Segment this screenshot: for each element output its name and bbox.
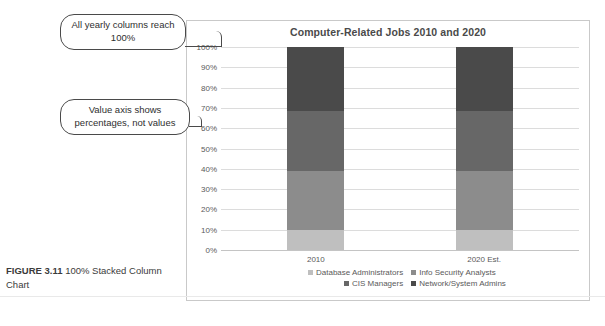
- callout-all-columns-reach-100: All yearly columns reach 100%: [60, 14, 186, 50]
- bar-segment[interactable]: [456, 230, 513, 250]
- legend-label: Database Administrators: [316, 268, 403, 277]
- legend-label: CIS Managers: [352, 279, 403, 288]
- y-axis-tick-label: 30%: [201, 185, 217, 194]
- legend-item[interactable]: Network/System Admins: [407, 279, 579, 288]
- gridline: [221, 250, 579, 251]
- bar-segment[interactable]: [287, 47, 344, 111]
- y-axis-tick-label: 20%: [201, 205, 217, 214]
- chart-title: Computer-Related Jobs 2010 and 2020: [187, 26, 589, 38]
- bar-segment[interactable]: [287, 111, 344, 171]
- y-axis-tick-label: 0%: [205, 246, 217, 255]
- y-axis-tick-label: 60%: [201, 124, 217, 133]
- y-axis-tick-label: 50%: [201, 144, 217, 153]
- gridline: [221, 128, 579, 129]
- legend-item[interactable]: CIS Managers: [221, 279, 407, 288]
- y-axis-tick-label: 70%: [201, 103, 217, 112]
- x-axis-category-label: 2010: [307, 255, 325, 264]
- y-axis-tick-label: 40%: [201, 164, 217, 173]
- gridline: [221, 47, 579, 48]
- stacked-bar-2020-est[interactable]: 2020 Est.: [456, 47, 513, 250]
- bar-segment[interactable]: [456, 171, 513, 230]
- gridline: [221, 67, 579, 68]
- legend-swatch-icon: [411, 281, 416, 286]
- page-divider: [0, 296, 605, 297]
- x-axis-category-label: 2020 Est.: [467, 255, 501, 264]
- bar-segment[interactable]: [287, 171, 344, 230]
- chart-container: Computer-Related Jobs 2010 and 2020 0%10…: [186, 20, 590, 301]
- legend-item[interactable]: Info Security Analysts: [407, 268, 579, 277]
- bar-segment[interactable]: [287, 230, 344, 250]
- gridline: [221, 209, 579, 210]
- callout-value-axis-percentages: Value axis shows percentages, not values: [60, 99, 190, 135]
- bar-segment[interactable]: [456, 47, 513, 111]
- chart-legend: Database AdministratorsInfo Security Ana…: [221, 267, 579, 289]
- plot-area: 0%10%20%30%40%50%60%70%80%90%100%2010202…: [221, 47, 579, 250]
- figure-caption: FIGURE 3.11 100% Stacked Column Chart: [6, 264, 178, 292]
- gridline: [221, 88, 579, 89]
- legend-swatch-icon: [344, 281, 349, 286]
- legend-label: Network/System Admins: [419, 279, 506, 288]
- y-axis-tick-label: 90%: [201, 63, 217, 72]
- legend-swatch-icon: [411, 270, 416, 275]
- gridline: [221, 149, 579, 150]
- callout-1-leader-line: [185, 31, 222, 47]
- bar-segment[interactable]: [456, 111, 513, 171]
- stacked-bar-2010[interactable]: 2010: [287, 47, 344, 250]
- figure-label: FIGURE 3.11: [6, 265, 63, 276]
- gridline: [221, 230, 579, 231]
- gridline: [221, 189, 579, 190]
- legend-label: Info Security Analysts: [419, 268, 495, 277]
- y-axis-tick-label: 80%: [201, 83, 217, 92]
- gridline: [221, 108, 579, 109]
- figure-page: All yearly columns reach 100% Value axis…: [0, 0, 605, 326]
- legend-swatch-icon: [308, 270, 313, 275]
- callout-2-leader-line: [189, 116, 202, 127]
- gridline: [221, 169, 579, 170]
- y-axis-tick-label: 10%: [201, 225, 217, 234]
- legend-item[interactable]: Database Administrators: [221, 268, 407, 277]
